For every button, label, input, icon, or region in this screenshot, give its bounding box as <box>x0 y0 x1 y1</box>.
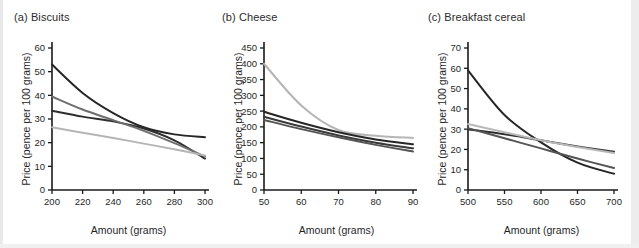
chart-panel-cheese: (b) Cheese 05010015020025030035040045050… <box>208 0 421 248</box>
y-tick-label-a: 50 <box>34 66 45 77</box>
plot-area-c: 010203040506070500550600650700Price (pen… <box>416 0 631 248</box>
y-axis-title-c: Price (pence per 100 grams) <box>436 52 448 185</box>
x-tick-label-c: 600 <box>533 196 549 207</box>
data-line-b-curve-2 <box>264 112 413 145</box>
y-axis-title-a: Price (pence per 100 grams) <box>20 52 32 185</box>
x-tick-label-b: 50 <box>259 196 270 207</box>
y-tick-label-a: 10 <box>34 161 45 172</box>
data-line-b-curve-1 <box>264 64 413 138</box>
x-tick-label-c: 500 <box>460 196 476 207</box>
x-tick-label-b: 80 <box>370 196 381 207</box>
y-tick-label-b: 0 <box>252 184 257 195</box>
chart-panel-biscuits: (a) Biscuits 010203040506020022024026028… <box>0 0 213 248</box>
x-tick-label-b: 60 <box>296 196 307 207</box>
x-tick-label-c: 700 <box>606 196 622 207</box>
data-line-a-curve-4 <box>52 127 205 155</box>
plot-area-b: 0501001502002503003504004505060708090Pri… <box>208 0 421 248</box>
x-axis-title-a: Amount (grams) <box>0 224 235 236</box>
y-axis-title-b: Price (pence per 100 grams) <box>232 52 244 185</box>
y-tick-label-a: 40 <box>34 90 45 101</box>
chart-panel-breakfast-cereal: (c) Breakfast cereal 0102030405060705005… <box>416 0 631 248</box>
y-tick-label-b: 450 <box>241 42 257 53</box>
y-tick-label-c: 60 <box>450 63 461 74</box>
x-tick-label-b: 70 <box>333 196 344 207</box>
x-tick-label-a: 240 <box>105 196 121 207</box>
y-tick-label-c: 70 <box>450 42 461 53</box>
y-tick-label-c: 50 <box>450 83 461 94</box>
x-axis-title-c: Amount (grams) <box>416 224 639 236</box>
y-tick-label-b: 50 <box>246 169 257 180</box>
y-tick-label-a: 60 <box>34 42 45 53</box>
y-tick-label-c: 30 <box>450 124 461 135</box>
y-tick-label-a: 0 <box>40 184 45 195</box>
plot-area-a: 0102030405060200220240260280300Price (pe… <box>0 0 213 248</box>
x-tick-label-c: 550 <box>497 196 513 207</box>
x-tick-label-a: 260 <box>136 196 152 207</box>
y-tick-label-c: 0 <box>456 184 461 195</box>
y-tick-label-a: 20 <box>34 137 45 148</box>
y-tick-label-c: 10 <box>450 164 461 175</box>
y-tick-label-c: 40 <box>450 103 461 114</box>
figure-panel-group: (a) Biscuits 010203040506020022024026028… <box>0 0 639 248</box>
x-tick-label-a: 220 <box>75 196 91 207</box>
x-tick-label-c: 650 <box>570 196 586 207</box>
y-tick-label-c: 20 <box>450 144 461 155</box>
data-line-c-curve-1 <box>468 70 614 173</box>
data-line-a-curve-3 <box>52 97 205 157</box>
x-tick-label-a: 200 <box>44 196 60 207</box>
x-tick-label-a: 280 <box>166 196 182 207</box>
page-edge-right <box>631 0 639 248</box>
y-tick-label-a: 30 <box>34 113 45 124</box>
x-axis-title-b: Amount (grams) <box>208 224 443 236</box>
